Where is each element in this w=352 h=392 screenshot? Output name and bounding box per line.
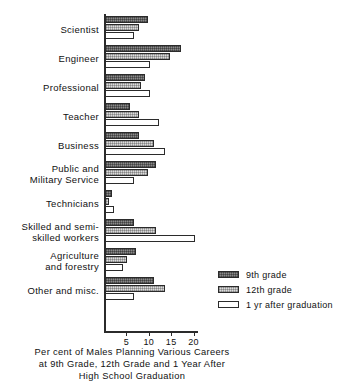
x-tick — [171, 332, 172, 336]
bar-1-yr-after-graduation — [105, 32, 134, 39]
category-label: Teacher — [0, 110, 99, 121]
category-label: Technicians — [0, 197, 99, 208]
category-row: Skilled and semi- skilled workers — [0, 217, 352, 246]
chart-legend: 9th grade12th grade1 yr after graduation — [218, 268, 352, 313]
page-top-bleed — [0, 0, 352, 8]
career-plans-bar-chart: ScientistEngineerProfessionalTeacherBusi… — [0, 0, 352, 392]
category-label: Skilled and semi- skilled workers — [0, 221, 99, 243]
bar-1-yr-after-graduation — [105, 90, 150, 97]
category-row: Engineer — [0, 43, 352, 72]
caption-line: High School Graduation — [0, 370, 264, 382]
category-label: Professional — [0, 81, 99, 92]
category-label: Agriculture and forestry — [0, 250, 99, 272]
bar-group — [105, 16, 345, 41]
x-tick — [194, 332, 195, 336]
legend-label: 12th grade — [246, 285, 292, 295]
legend-label: 1 yr after graduation — [246, 300, 333, 310]
bar-9th-grade — [105, 161, 156, 168]
bar-12th-grade — [105, 198, 109, 205]
legend-swatch — [218, 301, 239, 308]
bar-1-yr-after-graduation — [105, 119, 159, 126]
category-row: Scientist — [0, 14, 352, 43]
legend-label: 9th grade — [246, 270, 287, 280]
bar-12th-grade — [105, 256, 127, 263]
bar-12th-grade — [105, 285, 165, 292]
legend-item: 12th grade — [218, 283, 352, 296]
category-label: Scientist — [0, 23, 99, 34]
bar-group — [105, 45, 345, 70]
bar-12th-grade — [105, 24, 139, 31]
bar-1-yr-after-graduation — [105, 61, 150, 68]
category-row: Public and Military Service — [0, 159, 352, 188]
x-axis-line — [104, 331, 198, 333]
category-label: Engineer — [0, 52, 99, 63]
category-label: Business — [0, 139, 99, 150]
bar-12th-grade — [105, 140, 154, 147]
chart-caption: Per cent of Males Planning Various Caree… — [0, 346, 264, 382]
bar-9th-grade — [105, 103, 130, 110]
bar-9th-grade — [105, 277, 154, 284]
bar-9th-grade — [105, 16, 148, 23]
legend-swatch — [218, 271, 239, 278]
bar-1-yr-after-graduation — [105, 206, 114, 213]
x-tick — [126, 332, 127, 336]
category-label: Other and misc. — [0, 284, 99, 295]
bar-group — [105, 132, 345, 157]
caption-line: at 9th Grade, 12th Grade and 1 Year Afte… — [0, 358, 264, 370]
category-row: Professional — [0, 72, 352, 101]
category-rows: ScientistEngineerProfessionalTeacherBusi… — [0, 14, 352, 304]
category-row: Teacher — [0, 101, 352, 130]
bar-1-yr-after-graduation — [105, 177, 134, 184]
bar-12th-grade — [105, 169, 148, 176]
bar-1-yr-after-graduation — [105, 293, 134, 300]
bar-9th-grade — [105, 190, 112, 197]
bar-1-yr-after-graduation — [105, 235, 195, 242]
legend-swatch — [218, 286, 239, 293]
bar-9th-grade — [105, 74, 145, 81]
bar-1-yr-after-graduation — [105, 264, 123, 271]
bar-group — [105, 190, 345, 215]
bar-9th-grade — [105, 248, 136, 255]
category-row: Business — [0, 130, 352, 159]
bar-9th-grade — [105, 219, 134, 226]
legend-item: 1 yr after graduation — [218, 298, 352, 311]
category-label: Public and Military Service — [0, 163, 99, 185]
bar-12th-grade — [105, 111, 139, 118]
caption-line: Per cent of Males Planning Various Caree… — [0, 346, 264, 358]
bar-12th-grade — [105, 82, 141, 89]
bar-group — [105, 219, 345, 244]
bar-group — [105, 161, 345, 186]
bar-12th-grade — [105, 53, 170, 60]
bar-12th-grade — [105, 227, 156, 234]
bar-9th-grade — [105, 45, 181, 52]
x-tick — [149, 332, 150, 336]
bar-group — [105, 103, 345, 128]
bar-9th-grade — [105, 132, 139, 139]
bar-group — [105, 74, 345, 99]
category-row: Technicians — [0, 188, 352, 217]
bar-1-yr-after-graduation — [105, 148, 165, 155]
legend-item: 9th grade — [218, 268, 352, 281]
y-axis-line — [104, 14, 106, 332]
